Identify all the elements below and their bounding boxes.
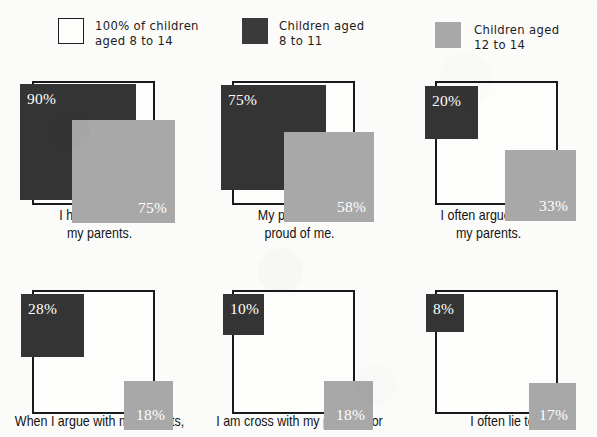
plot-area-3: 20% 33%: [389, 66, 588, 212]
legend-label-reference-100: 100% of children aged 8 to 14: [95, 18, 199, 48]
value-label-gray-6: 17%: [539, 407, 568, 423]
legend-item-aged-12-to-14: Children aged 12 to 14: [435, 22, 559, 52]
plot-area-4: 28% 18%: [0, 275, 199, 421]
bar-square-gray-3: 33%: [505, 150, 576, 221]
legend-item-aged-8-to-11: Children aged 8 to 11: [242, 18, 364, 48]
chart-panel-3: 20% 33% I often argue with my parents.: [389, 66, 588, 212]
legend-label-aged-12-to-14: Children aged 12 to 14: [474, 22, 559, 52]
plot-area-6: 8% 17%: [389, 275, 588, 421]
dark-swatch-icon: [242, 18, 268, 44]
bar-square-gray-4: 18%: [124, 381, 173, 430]
legend: 100% of children aged 8 to 14 Children a…: [0, 0, 597, 66]
legend-item-reference-100: 100% of children aged 8 to 14: [58, 18, 199, 48]
bar-square-gray-2: 58%: [284, 132, 374, 222]
gray-swatch-icon: [435, 22, 461, 48]
legend-label-aged-8-to-11: Children aged 8 to 11: [279, 18, 364, 48]
bar-square-gray-6: 17%: [529, 383, 576, 430]
chart-panel-2: 75% 58% My parents are proud of me.: [200, 66, 399, 212]
plot-area-2: 75% 58%: [200, 66, 399, 212]
value-label-gray-3: 33%: [539, 198, 568, 214]
bar-square-gray-5: 18%: [324, 381, 373, 430]
plot-area-1: 90% 75%: [0, 66, 199, 212]
value-label-dark-6: 8%: [433, 301, 454, 317]
value-label-gray-1: 75%: [138, 200, 167, 216]
bar-square-dark-3: 20%: [425, 86, 478, 139]
value-label-dark-1: 90%: [27, 91, 56, 107]
plot-area-5: 10% 18%: [200, 275, 399, 421]
value-label-gray-4: 18%: [136, 407, 165, 423]
bar-square-dark-5: 10%: [223, 294, 264, 335]
value-label-gray-2: 58%: [337, 199, 366, 215]
bar-square-dark-4: 28%: [21, 294, 84, 357]
value-label-gray-5: 18%: [336, 407, 365, 423]
chart-panel-5: 10% 18% I am cross with my parents for: [200, 275, 399, 421]
value-label-dark-4: 28%: [28, 301, 57, 317]
value-label-dark-3: 20%: [432, 93, 461, 109]
value-label-dark-5: 10%: [230, 301, 259, 317]
chart-panel-4: 28% 18% When I argue with my parents,: [0, 275, 199, 421]
chart-panel-6: 8% 17% I often lie to: [389, 275, 588, 421]
chart-panel-1: 90% 75% I have fun with my parents.: [0, 66, 199, 212]
bar-square-dark-6: 8%: [426, 294, 464, 332]
bar-square-gray-1: 75%: [72, 120, 175, 223]
value-label-dark-2: 75%: [228, 92, 257, 108]
reference-swatch-icon: [58, 18, 84, 44]
chart-panel-grid: 90% 75% I have fun with my parents. 75% …: [0, 66, 597, 437]
